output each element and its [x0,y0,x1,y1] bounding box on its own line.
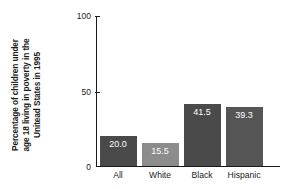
bar-value-all: 20.0 [100,139,137,149]
bar-value-hispanic: 39.3 [226,110,263,120]
x-axis-category-labels: All White Black Hispanic [97,170,265,180]
x-tick-label-all: All [97,170,139,180]
x-tick-label-hispanic: Hispanic [223,170,265,180]
plot-area: 100 50 0 20.0 15.5 41.5 [96,16,264,167]
y-axis-title: Percentage of children under age 18 livi… [0,0,54,189]
bar-series: 20.0 15.5 41.5 39.3 [97,16,265,166]
bar-black[interactable]: 41.5 [184,104,221,166]
x-tick-label-black: Black [181,170,223,180]
bar-slot-hispanic: 39.3 [223,16,265,166]
y-tick-label-0: 0 [86,162,91,171]
bar-value-black: 41.5 [184,107,221,117]
bar-hispanic[interactable]: 39.3 [226,107,263,166]
x-tick-label-white: White [139,170,181,180]
bar-slot-black: 41.5 [181,16,223,166]
bar-slot-white: 15.5 [139,16,181,166]
x-axis-line [96,166,280,167]
y-axis-title-text: Percentage of children under age 18 livi… [10,7,44,182]
y-axis-title-line-3: Unitead States in 1995 [33,7,44,182]
y-axis-title-line-2: age 18 living in poverty in the [21,7,32,182]
y-tick-label-100: 100 [77,12,91,21]
bar-white[interactable]: 15.5 [142,143,179,166]
bar-all[interactable]: 20.0 [100,136,137,166]
bar-value-white: 15.5 [142,146,179,156]
y-tick-label-50: 50 [82,87,91,96]
y-axis-title-line-1: Percentage of children under [10,7,21,182]
bar-slot-all: 20.0 [97,16,139,166]
bar-chart-figure: Percentage of children under age 18 livi… [0,0,283,189]
